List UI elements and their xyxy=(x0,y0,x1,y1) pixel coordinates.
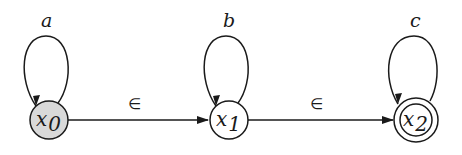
loop-label-b: b xyxy=(223,9,235,31)
loop-label-c: c xyxy=(410,9,421,31)
self-loop-x2: c xyxy=(389,9,437,104)
loop-label-a: a xyxy=(41,9,52,31)
state-x2: x2 xyxy=(394,98,438,142)
transition-x1-x2: ∈ xyxy=(248,95,393,120)
state-x0: x0 xyxy=(30,101,68,139)
edge-label-epsilon: ∈ xyxy=(128,95,141,113)
state-x1: x1 xyxy=(210,101,248,139)
edge-label-epsilon: ∈ xyxy=(310,95,323,113)
self-loop-x1: b xyxy=(204,9,248,106)
loop-arrowhead-icon xyxy=(395,93,402,104)
self-loop-x0: a xyxy=(24,9,68,106)
transition-x0-x1: ∈ xyxy=(68,95,208,120)
state-diagram: a b c ∈ ∈ x0 xyxy=(0,0,462,155)
